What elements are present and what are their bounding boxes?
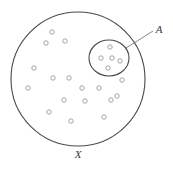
point-marker <box>97 86 101 90</box>
point-marker <box>110 56 114 60</box>
point-marker <box>120 78 124 82</box>
point-marker <box>106 66 110 70</box>
universe-circle-x <box>11 12 145 146</box>
leader-line-a <box>126 31 153 48</box>
point-marker <box>67 76 71 80</box>
label-a: A <box>155 23 163 35</box>
point-marker <box>80 86 84 90</box>
point-marker <box>108 45 112 49</box>
point-marker <box>63 39 67 43</box>
points-group-inside-subset <box>99 45 122 70</box>
point-marker <box>44 41 48 45</box>
point-marker <box>109 98 113 102</box>
point-marker <box>32 66 36 70</box>
point-marker <box>26 86 30 90</box>
point-marker <box>118 59 122 63</box>
point-marker <box>69 119 73 123</box>
point-marker <box>102 115 106 119</box>
figure-root: A X <box>0 0 173 171</box>
point-marker <box>115 94 119 98</box>
point-marker <box>99 56 103 60</box>
point-marker <box>51 76 55 80</box>
point-marker <box>62 98 66 102</box>
bottom-caption-strip <box>0 162 173 171</box>
point-marker <box>47 110 51 114</box>
point-marker <box>83 99 87 103</box>
point-marker <box>50 30 54 34</box>
label-x: X <box>74 148 83 160</box>
set-diagram: A X <box>0 0 173 171</box>
